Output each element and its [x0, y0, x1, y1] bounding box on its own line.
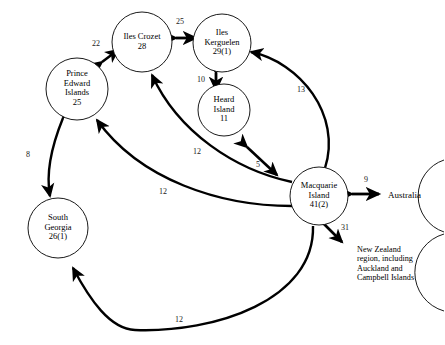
edge-label-prince-edward-crozet: 22 [90, 40, 102, 48]
node-circle-prince-edward-islands [46, 58, 108, 120]
edge-label-crozet-kerguelen: 25 [174, 18, 186, 26]
edge-label-prince-edward-south-georgia: 8 [23, 151, 33, 159]
node-circle-macquarie-island [290, 167, 348, 225]
nodes-layer [0, 0, 445, 345]
node-circle-heard-island [198, 84, 250, 136]
node-circle-iles-crozet [112, 12, 172, 72]
diagram-canvas: Prince Edward Islands 25 Iles Crozet 28 … [0, 0, 445, 345]
edge-label-macquarie-prince-edward: 12 [157, 188, 169, 196]
edge-label-kerguelen-heard: 10 [195, 76, 207, 84]
node-label-new-zealand-region: New Zealand region, including Auckland a… [357, 245, 445, 283]
node-circle-south-georgia [28, 198, 88, 258]
node-circle-iles-kerguelen [193, 14, 251, 72]
edge-label-heard-macquarie: 5 [253, 161, 263, 169]
edge-label-macquarie-new-zealand: 31 [339, 224, 351, 232]
edge-label-macquarie-crozet: 12 [191, 148, 203, 156]
node-arc-australia [418, 160, 444, 232]
edge-label-macquarie-kerguelen: 13 [295, 86, 307, 94]
edge-label-macquarie-south-georgia: 12 [173, 316, 185, 324]
edge-label-macquarie-australia: 9 [361, 176, 371, 184]
node-label-australia: Australia [388, 190, 421, 200]
